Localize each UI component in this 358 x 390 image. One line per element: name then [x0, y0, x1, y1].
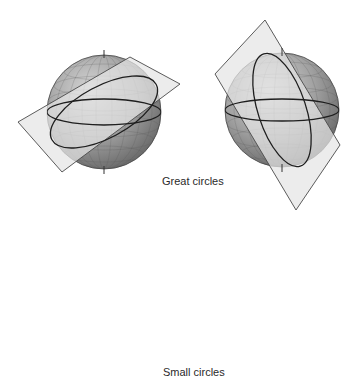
panel-great-circle-1 — [18, 50, 180, 174]
figure-canvas — [0, 0, 358, 390]
great-circles-label: Great circles — [162, 175, 224, 187]
panel-great-circle-2 — [215, 20, 340, 210]
small-circles-label: Small circles — [163, 366, 225, 378]
